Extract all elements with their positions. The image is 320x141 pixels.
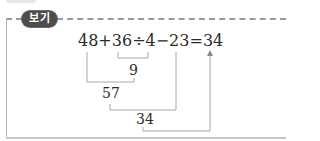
arrow-head-icon: [207, 50, 213, 56]
bracket-36-div-4: [118, 52, 148, 58]
step-result-57: 57: [102, 85, 120, 101]
step-result-9: 9: [129, 62, 138, 78]
bracket-57-minus-23: [110, 52, 176, 110]
bracket-48-plus-9: [87, 52, 134, 82]
step-result-34: 34: [136, 111, 154, 127]
